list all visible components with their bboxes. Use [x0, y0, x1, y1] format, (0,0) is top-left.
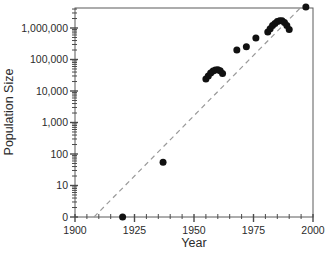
- plot-frame: [75, 8, 313, 217]
- y-tick-label: 1,000,000: [21, 22, 68, 34]
- y-tick-label: 10: [56, 179, 68, 191]
- data-point: [233, 47, 240, 54]
- data-point: [219, 70, 226, 77]
- population-scatter-chart: 0101001,00010,000100,0001,000,0001900192…: [0, 0, 330, 258]
- y-tick-label: 100: [50, 148, 68, 160]
- y-tick-label: 0: [62, 211, 68, 223]
- x-tick-label: 1900: [63, 224, 87, 236]
- data-point: [243, 43, 250, 50]
- y-tick-label: 1,000: [42, 116, 68, 128]
- figure-canvas: 0101001,00010,000100,0001,000,0001900192…: [0, 0, 330, 258]
- x-axis-title: Year: [181, 236, 206, 250]
- data-point: [160, 159, 167, 166]
- y-axis-title: Population Size: [2, 69, 16, 156]
- plot-generated-content: 0101001,00010,000100,0001,000,0001900192…: [21, 4, 325, 236]
- x-tick-label: 1975: [242, 224, 266, 236]
- data-point: [302, 4, 309, 11]
- x-tick-label: 1950: [182, 224, 206, 236]
- reference-dashed-line: [94, 7, 301, 217]
- y-tick-label: 10,000: [36, 85, 68, 97]
- y-tick-label: 100,000: [30, 53, 68, 65]
- data-point: [286, 26, 293, 33]
- data-point: [119, 214, 126, 221]
- data-point: [252, 35, 259, 42]
- x-tick-label: 2000: [301, 224, 325, 236]
- x-tick-label: 1925: [123, 224, 147, 236]
